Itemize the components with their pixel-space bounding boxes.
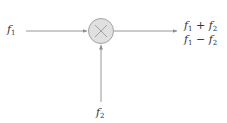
output-difference-label: f1 − f2 bbox=[184, 34, 217, 47]
multiplier-node bbox=[89, 19, 114, 44]
input-f1-label: f1 bbox=[7, 24, 16, 37]
input-f2-label: f2 bbox=[96, 107, 105, 120]
output-sum-label: f1 + f2 bbox=[184, 20, 217, 33]
